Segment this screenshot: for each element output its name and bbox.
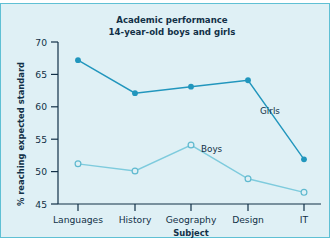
y-axis-label: % reaching expected standard bbox=[16, 62, 26, 206]
series-label-girls: Girls bbox=[260, 106, 280, 116]
x-axis-ticks bbox=[78, 204, 304, 211]
series-line-boys bbox=[78, 145, 304, 192]
chart-subtitle: 14-year-old boys and girls bbox=[109, 27, 236, 37]
data-point-girls-languages bbox=[75, 57, 81, 63]
series-markers-boys bbox=[75, 142, 307, 195]
series-label-boys: Boys bbox=[201, 144, 223, 154]
data-point-boys-geography bbox=[188, 142, 194, 148]
chart-panel: Academic performance 14-year-old boys an… bbox=[0, 3, 330, 238]
x-tick-label-it: IT bbox=[300, 214, 309, 225]
data-point-girls-design bbox=[245, 77, 251, 83]
chart-title: Academic performance bbox=[116, 15, 228, 25]
y-tick-label-50: 50 bbox=[35, 166, 47, 177]
y-tick-label-55: 55 bbox=[35, 134, 47, 145]
y-axis-ticks bbox=[51, 42, 58, 204]
x-tick-label-languages: Languages bbox=[53, 214, 103, 225]
data-point-boys-history bbox=[132, 168, 138, 174]
x-tick-label-geography: Geography bbox=[166, 214, 217, 225]
y-tick-label-65: 65 bbox=[35, 69, 47, 80]
x-axis-label: Subject bbox=[173, 228, 209, 238]
line-chart: Academic performance 14-year-old boys an… bbox=[1, 4, 331, 239]
data-point-girls-history bbox=[132, 90, 138, 96]
data-point-girls-geography bbox=[188, 84, 194, 90]
x-tick-label-design: Design bbox=[232, 214, 264, 225]
data-point-boys-it bbox=[301, 189, 307, 195]
y-tick-label-45: 45 bbox=[35, 199, 47, 210]
y-tick-label-70: 70 bbox=[35, 37, 47, 48]
x-tick-label-history: History bbox=[119, 214, 152, 225]
data-point-girls-it bbox=[301, 156, 307, 162]
y-tick-label-60: 60 bbox=[35, 101, 47, 112]
data-point-boys-languages bbox=[75, 161, 81, 167]
data-point-boys-design bbox=[245, 176, 251, 182]
